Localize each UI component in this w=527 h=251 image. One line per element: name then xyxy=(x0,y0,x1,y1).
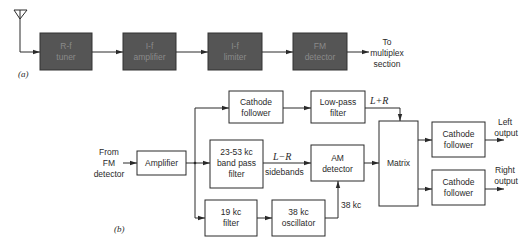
block-label: R-f xyxy=(60,41,72,51)
signal-line xyxy=(195,163,205,218)
right-output-label: Right output xyxy=(494,165,518,186)
block-label: tuner xyxy=(56,52,76,62)
svg-text:Right: Right xyxy=(495,165,515,175)
block-label: amplifier xyxy=(133,52,165,62)
block-label: FM xyxy=(314,41,326,51)
svg-text:detector: detector xyxy=(94,169,125,179)
antenna-feed-line xyxy=(20,19,40,52)
matrix-block: Matrix xyxy=(379,121,418,206)
block-label: AM xyxy=(331,153,344,163)
block-label: follower xyxy=(444,188,473,198)
svg-text:output: output xyxy=(494,128,518,138)
block-label: filter xyxy=(330,108,346,118)
fm-detector-block: FM detector xyxy=(293,33,347,70)
block-label: limiter xyxy=(224,52,247,62)
rf-tuner-block: R-f tuner xyxy=(40,33,92,70)
cathode-follower-right-block: Cathode follower xyxy=(432,170,485,205)
block-label: I-f xyxy=(146,41,154,51)
block-label: Cathode xyxy=(442,177,474,187)
band-pass-filter-block: 23-53 kc band pass filter xyxy=(210,140,263,188)
svg-text:From: From xyxy=(99,147,119,157)
amplifier-block: Amplifier xyxy=(137,151,186,175)
signal-line xyxy=(365,108,400,121)
cathode-follower-top-block: Cathode follower xyxy=(229,91,283,123)
left-output-label: Left output xyxy=(494,117,518,138)
if-limiter-block: I-f limiter xyxy=(208,33,262,70)
svg-text:Left: Left xyxy=(498,117,513,127)
block-label: filter xyxy=(228,169,244,179)
sidebands-label: sidebands xyxy=(265,167,304,177)
block-label: I-f xyxy=(231,41,239,51)
am-detector-block: AM detector xyxy=(311,145,364,181)
block-label: band pass xyxy=(217,158,256,168)
block-label: follower xyxy=(444,140,473,150)
signal-line xyxy=(325,181,338,218)
l-plus-r-label: L+R xyxy=(369,95,388,106)
block-label: Matrix xyxy=(387,158,411,168)
block-label: Cathode xyxy=(240,97,272,107)
antenna-icon xyxy=(14,10,27,19)
multiplex-output-label: To multiplex section xyxy=(370,37,404,69)
block-label: oscillator xyxy=(282,218,316,228)
l-minus-r-label: L−R xyxy=(272,151,291,162)
figure-label-b: (b) xyxy=(114,224,125,234)
filter-19kc-block: 19 kc filter xyxy=(205,200,257,236)
svg-text:To: To xyxy=(383,37,392,47)
block-label: detector xyxy=(305,52,336,62)
block-label: follower xyxy=(241,108,270,118)
input-label: From FM detector xyxy=(94,147,125,179)
block-label: 38 kc xyxy=(288,207,309,217)
low-pass-filter-block: Low-pass filter xyxy=(311,91,365,123)
block-label: Cathode xyxy=(442,129,474,139)
fm-stereo-block-diagram: R-f tuner I-f amplifier I-f limiter FM d… xyxy=(0,0,527,251)
figure-label-a: (a) xyxy=(18,69,29,79)
svg-text:multiplex: multiplex xyxy=(370,48,404,58)
svg-text:section: section xyxy=(374,59,401,69)
block-label: filter xyxy=(223,218,239,228)
block-label: detector xyxy=(322,164,353,174)
oscillator-38kc-block: 38 kc oscillator xyxy=(272,200,325,236)
svg-text:output: output xyxy=(494,176,518,186)
block-label: 23-53 kc xyxy=(220,147,253,157)
block-label: Amplifier xyxy=(145,158,178,168)
block-label: Low-pass xyxy=(320,97,356,107)
cathode-follower-left-block: Cathode follower xyxy=(432,122,485,157)
svg-text:FM: FM xyxy=(103,158,115,168)
block-label: 19 kc xyxy=(221,207,242,217)
carrier-38kc-label: 38 kc xyxy=(341,200,362,210)
if-amplifier-block: I-f amplifier xyxy=(123,33,176,70)
